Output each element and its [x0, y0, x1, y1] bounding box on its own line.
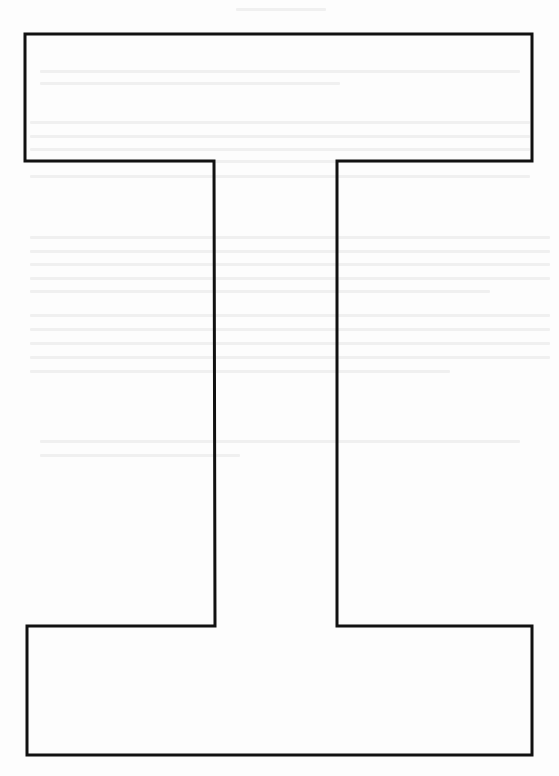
capital-i-outline [0, 0, 559, 776]
scanned-page [0, 0, 559, 776]
i-shape-polygon [25, 34, 532, 755]
